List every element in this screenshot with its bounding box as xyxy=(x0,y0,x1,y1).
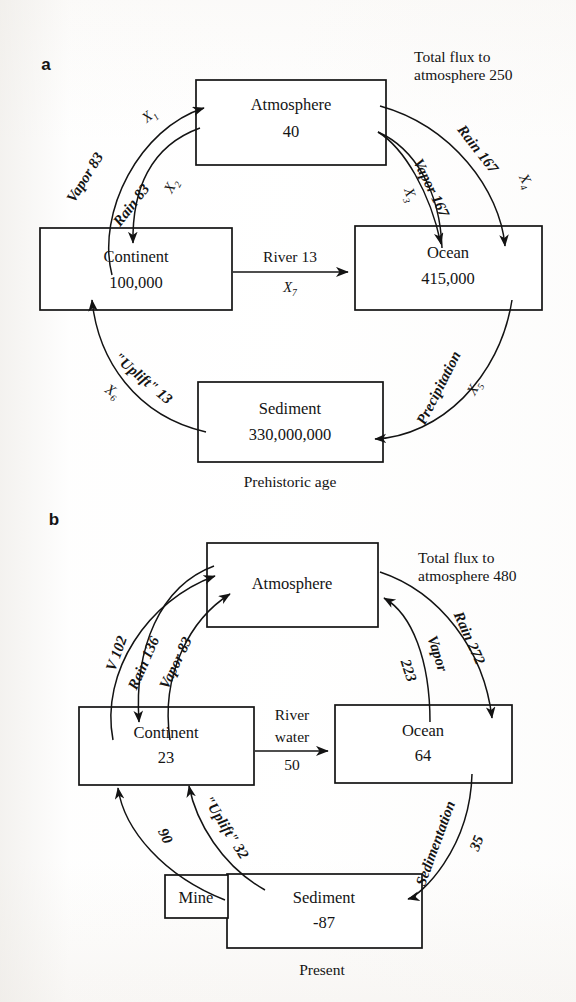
panel-b-flow-label-v-102: V 102 xyxy=(103,633,131,673)
panel-b-flow-label-rain-272: Rain 272 xyxy=(450,608,488,667)
panel-b-flow-label-mine-90: 90 xyxy=(155,826,176,847)
panel-a-flux-header-line1: Total flux to xyxy=(414,48,491,65)
panel-a-flow-label-rain-x4: Rain 167 xyxy=(454,121,502,176)
panel-b-flux-header-line1: Total flux to xyxy=(418,549,495,566)
panel-b-flux-header-line2: atmosphere 480 xyxy=(418,567,517,584)
panel-b-caption: Present xyxy=(299,961,345,978)
panel-b-node-continent-label: Continent xyxy=(133,723,198,742)
panel-b-node-ocean-label: Ocean xyxy=(402,721,444,740)
panel-b-flow-label-river-line2: water xyxy=(275,728,310,745)
panel-a-letter: a xyxy=(41,55,51,74)
panel-b-node-ocean-box xyxy=(335,705,512,783)
panel-b-node-sediment-label: Sediment xyxy=(293,888,356,907)
panel-b-flow-value-sedimentation-35: 35 xyxy=(466,833,487,854)
panel-a-arrow-rain-x4 xyxy=(380,106,505,246)
panel-a-node-sediment-value: 330,000,000 xyxy=(249,425,332,444)
panel-b-flow-value-vapor-223: 223 xyxy=(397,656,420,684)
panel-a-node-ocean-label: Ocean xyxy=(427,243,469,262)
panel-b-flow-label-river-line1: River xyxy=(275,706,310,723)
panel-a-node-continent-value: 100,000 xyxy=(109,273,163,292)
panel-a-flow-label-vapor-x1: Vapor 83 xyxy=(63,149,106,205)
panel-a-flow-symbol-x6: X6 xyxy=(100,380,123,404)
panel-a-flow-label-precipitation-x5: Precipitation xyxy=(413,348,464,427)
panel-a-flow-label-uplift-x6: "Uplift" 13 xyxy=(111,349,176,407)
panel-a: a Total flux to atmosphere 250 Atmospher… xyxy=(40,48,542,490)
panel-b-flow-value-river-50: 50 xyxy=(284,756,300,773)
panel-a-flow-symbol-x7: X7 xyxy=(282,279,298,298)
panel-a-node-atmosphere-value: 40 xyxy=(283,122,300,141)
panel-b-flow-label-vapor-83: Vapor 83 xyxy=(156,634,195,691)
panel-a-flow-symbol-x3: X3 xyxy=(398,185,421,205)
panel-b-node-mine-label: Mine xyxy=(179,888,214,907)
water-cycle-diagram: a Total flux to atmosphere 250 Atmospher… xyxy=(0,0,576,1002)
panel-b-node-continent-box xyxy=(79,707,254,785)
panel-a-node-ocean-value: 415,000 xyxy=(421,269,475,288)
panel-a-node-sediment-label: Sediment xyxy=(259,399,322,418)
panel-a-flow-symbol-x2: X2 xyxy=(160,176,184,198)
panel-a-node-sediment-box xyxy=(198,382,383,462)
panel-a-node-ocean-box xyxy=(355,226,542,310)
panel-b-letter: b xyxy=(49,510,59,529)
panel-a-flow-symbol-x5: X5 xyxy=(463,378,487,400)
panel-a-flow-symbol-x1: X1 xyxy=(138,105,161,129)
panel-b-flow-label-vapor-223: Vapor xyxy=(424,634,451,674)
panel-b-node-continent-value: 23 xyxy=(158,748,175,767)
panel-b-node-ocean-value: 64 xyxy=(415,746,432,765)
panel-a-flow-symbol-x4: X4 xyxy=(513,170,537,192)
panel-b-node-atmosphere-label: Atmosphere xyxy=(252,574,333,593)
panel-b-node-sediment-value: -87 xyxy=(313,913,335,932)
panel-a-flow-label-river-x7: River 13 xyxy=(263,248,317,265)
panel-a-node-atmosphere-label: Atmosphere xyxy=(251,95,332,114)
panel-a-arrow-uplift-x6 xyxy=(92,300,206,432)
panel-a-caption: Prehistoric age xyxy=(244,473,337,490)
panel-b: b Total flux to atmosphere 480 Atmospher… xyxy=(49,510,517,978)
panel-a-flux-header-line2: atmosphere 250 xyxy=(414,66,513,83)
panel-b-flow-label-uplift-32: "Uplift" 32 xyxy=(201,793,253,862)
panel-a-node-continent-box xyxy=(40,228,232,310)
panel-a-node-continent-label: Continent xyxy=(103,247,168,266)
